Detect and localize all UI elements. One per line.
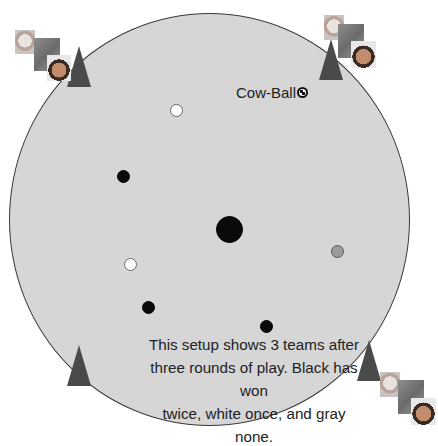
black-team-marker <box>142 301 155 314</box>
player-avatar <box>380 372 400 397</box>
caption-line: This setup shows 3 teams after <box>143 333 365 356</box>
white-team-marker <box>170 104 183 117</box>
caption-line: three rounds of play. Black has won <box>143 356 365 402</box>
gray-team-marker <box>331 245 344 258</box>
soccer-ball-icon <box>297 87 308 98</box>
center-marker <box>216 216 243 243</box>
player-avatar <box>15 30 35 54</box>
player-avatar <box>351 41 376 68</box>
caption: This setup shows 3 teams after three rou… <box>143 333 365 446</box>
player-avatar <box>411 398 436 425</box>
cone-icon <box>67 345 91 386</box>
black-team-marker <box>117 170 130 183</box>
caption-line: twice, white once, and gray none. <box>143 402 365 446</box>
cow-ball-label: Cow-Ball <box>236 84 296 101</box>
black-team-marker <box>260 320 273 333</box>
player-avatar <box>47 55 71 81</box>
white-team-marker <box>124 258 137 271</box>
